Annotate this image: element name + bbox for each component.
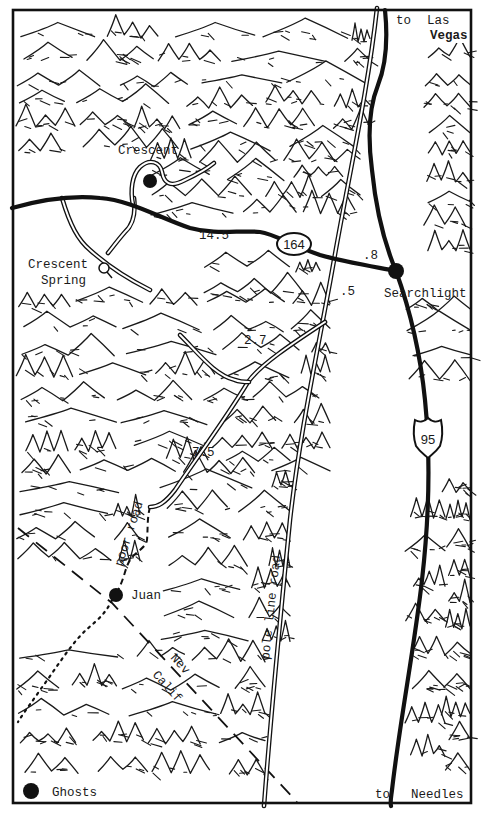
juan-label: Juan <box>131 589 161 603</box>
searchlight-marker[interactable] <box>388 263 404 279</box>
crescent-spring-marker[interactable] <box>99 263 109 273</box>
crescent-spring-label-line2: Spring <box>41 274 86 288</box>
ghosts-label: Ghosts <box>52 786 97 800</box>
svg-text:164: 164 <box>283 237 305 252</box>
to-las-vegas-to: to <box>396 14 411 28</box>
to-las-vegas-vegas: Vegas <box>430 29 468 43</box>
route-164-shield: 164 <box>277 233 311 255</box>
juan-marker[interactable] <box>109 588 123 602</box>
to-las-vegas-las: Las <box>427 14 450 28</box>
crescent-marker[interactable] <box>143 174 157 188</box>
distance-7-5: 7.5 <box>192 446 215 460</box>
distance-0-8: .8 <box>363 249 378 263</box>
highway-us-95[interactable] <box>370 10 429 806</box>
label-masks <box>360 8 374 808</box>
svg-text:95: 95 <box>421 432 435 447</box>
distance-0-5: .5 <box>340 285 355 299</box>
us-95-shield: 95 <box>414 418 442 458</box>
ghosts-marker[interactable] <box>23 783 39 799</box>
crescent-spring-label-line1: Crescent <box>28 258 88 272</box>
distance-14-5: 14.5 <box>199 229 229 243</box>
to-needles-to: to <box>375 788 390 802</box>
to-needles-dest: Needles <box>411 788 464 802</box>
distance-2-7: 2.7 <box>244 334 267 348</box>
dotted-trail <box>18 600 112 722</box>
state-line-nev-label: Nev <box>167 651 193 677</box>
crescent-spring-marker-tail <box>107 272 112 278</box>
map-canvas: 164 95 Crescent Crescent Spring Searchli… <box>0 0 487 814</box>
searchlight-label: Searchlight <box>384 287 467 301</box>
crescent-label: Crescent <box>118 144 178 158</box>
